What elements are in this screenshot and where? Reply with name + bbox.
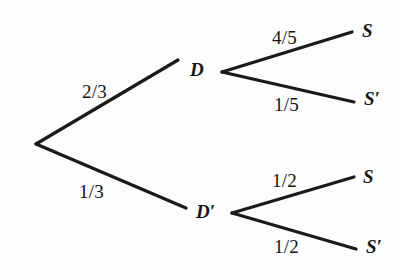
node-label-d: D	[190, 60, 204, 79]
edge-label-dprime-to-sprime: 1/2	[274, 237, 299, 256]
edge-label-root-to-dprime: 1/3	[79, 182, 104, 201]
edge-label-dprime-to-s: 1/2	[272, 171, 297, 190]
node-label-dprime: D′	[196, 202, 215, 221]
probability-tree-diagram: D D′ S S′ S S′ 2/3 1/3 4/5 1/5 1/2 1/2	[0, 0, 399, 277]
edge-label-d-to-sprime: 1/5	[274, 95, 299, 114]
node-label-s-bottom: S	[363, 167, 374, 186]
edge-line-root-to-dprime	[36, 144, 186, 208]
tree-edges-svg	[0, 0, 399, 277]
edge-line-root-to-d	[36, 60, 178, 144]
edge-label-root-to-d: 2/3	[82, 82, 107, 101]
node-label-sprime-top: S′	[364, 89, 380, 108]
node-label-sprime-bottom: S′	[366, 237, 382, 256]
edge-label-d-to-s: 4/5	[272, 28, 297, 47]
node-label-s-top: S	[362, 21, 373, 40]
